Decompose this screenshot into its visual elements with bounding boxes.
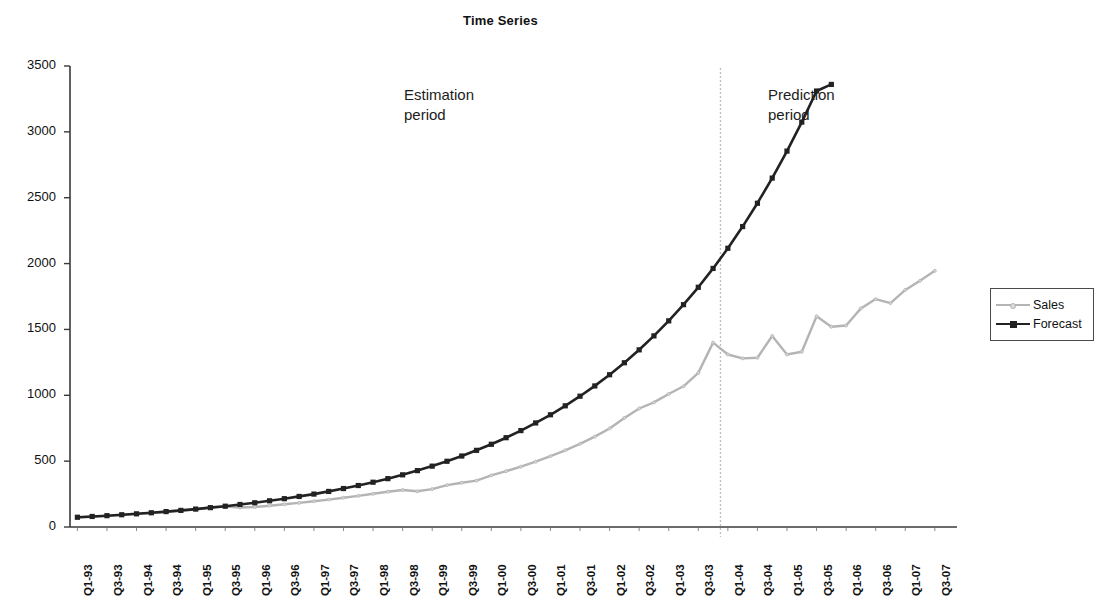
series-marker-sales [667, 392, 670, 395]
x-axis-tick-label: Q3-01 [585, 565, 597, 596]
series-marker-forecast [725, 246, 730, 251]
prediction-period-label: Prediction period [768, 85, 835, 125]
series-marker-forecast [666, 318, 671, 323]
legend-item-sales[interactable]: Sales [996, 295, 1088, 314]
series-marker-forecast [297, 494, 302, 499]
x-axis-tick-label: Q1-97 [319, 565, 331, 596]
x-axis-tick-label: Q1-93 [82, 565, 94, 596]
series-marker-forecast [341, 486, 346, 491]
x-axis-tick-label: Q3-98 [408, 565, 420, 596]
series-marker-sales [638, 407, 641, 410]
series-marker-sales [549, 455, 552, 458]
y-axis-ticks [64, 66, 70, 527]
y-axis-tick-label: 2500 [0, 189, 56, 204]
series-marker-sales [579, 442, 582, 445]
x-axis-tick-label: Q3-97 [348, 565, 360, 596]
x-axis-tick-label: Q3-95 [230, 565, 242, 596]
x-axis-tick-label: Q3-05 [822, 565, 834, 596]
series-marker-sales [519, 465, 522, 468]
series-marker-forecast [518, 428, 523, 433]
series-marker-forecast [444, 459, 449, 464]
series-marker-forecast [607, 372, 612, 377]
x-axis-tick-label: Q3-00 [526, 565, 538, 596]
series-marker-forecast [415, 468, 420, 473]
series-marker-forecast [134, 511, 139, 516]
y-axis-tick-label: 3500 [0, 57, 56, 72]
legend-item-forecast[interactable]: Forecast [996, 314, 1088, 333]
series-marker-sales [919, 279, 922, 282]
chart-legend: Sales Forecast [990, 288, 1094, 341]
series-marker-forecast [208, 505, 213, 510]
series-marker-forecast [370, 480, 375, 485]
series-marker-sales [830, 325, 833, 328]
series-marker-forecast [430, 464, 435, 469]
series-marker-sales [623, 416, 626, 419]
series-marker-sales [386, 490, 389, 493]
series-marker-sales [564, 449, 567, 452]
x-axis-tick-label: Q1-03 [674, 565, 686, 596]
series-marker-sales [253, 505, 256, 508]
series-marker-forecast [563, 403, 568, 408]
series-marker-sales [283, 503, 286, 506]
x-axis-tick-label: Q1-02 [615, 565, 627, 596]
series-marker-sales [593, 435, 596, 438]
series-marker-forecast [474, 448, 479, 453]
series-marker-sales [608, 427, 611, 430]
series-marker-sales [859, 307, 862, 310]
x-axis-tick-label: Q3-93 [112, 565, 124, 596]
series-marker-forecast [637, 347, 642, 352]
series-marker-forecast [237, 502, 242, 507]
x-axis-tick-label: Q1-06 [851, 565, 863, 596]
series-marker-forecast [311, 491, 316, 496]
series-marker-sales [771, 335, 774, 338]
series-marker-forecast [163, 509, 168, 514]
series-marker-sales [445, 484, 448, 487]
x-axis-tick-label: Q3-99 [467, 565, 479, 596]
x-axis-tick-label: Q3-03 [703, 565, 715, 596]
series-marker-forecast [592, 383, 597, 388]
series-marker-forecast [696, 285, 701, 290]
series-marker-forecast [548, 412, 553, 417]
series-marker-forecast [119, 512, 124, 517]
axes [70, 66, 957, 531]
series-marker-forecast [784, 148, 789, 153]
series-marker-sales [312, 500, 315, 503]
series-marker-forecast [622, 360, 627, 365]
x-axis-tick-label: Q3-06 [881, 565, 893, 596]
series-marker-forecast [651, 333, 656, 338]
x-axis-tick-label: Q3-94 [171, 565, 183, 596]
series-marker-sales [298, 501, 301, 504]
y-axis-tick-label: 1500 [0, 320, 56, 335]
y-axis-tick-label: 1000 [0, 386, 56, 401]
series-marker-sales [652, 401, 655, 404]
x-axis-tick-label: Q1-95 [201, 565, 213, 596]
series-marker-sales [800, 350, 803, 353]
series-marker-forecast [326, 489, 331, 494]
series-marker-forecast [223, 504, 228, 509]
legend-swatch-sales-icon [996, 299, 1030, 311]
x-axis-tick-label: Q1-07 [910, 565, 922, 596]
y-axis-tick-label: 0 [0, 518, 56, 533]
series-marker-forecast [282, 496, 287, 501]
legend-label-forecast: Forecast [1033, 317, 1082, 331]
series-marker-forecast [504, 435, 509, 440]
series-marker-sales [741, 357, 744, 360]
y-axis-tick-label: 3000 [0, 123, 56, 138]
series-marker-sales [401, 488, 404, 491]
series-marker-sales [490, 474, 493, 477]
series-marker-sales [785, 353, 788, 356]
series-marker-forecast [178, 508, 183, 513]
series-marker-sales [874, 298, 877, 301]
series-marker-sales [416, 490, 419, 493]
x-axis-tick-label: Q3-02 [644, 565, 656, 596]
x-axis-tick-label: Q1-05 [792, 565, 804, 596]
series-marker-sales [475, 479, 478, 482]
series-marker-forecast [356, 483, 361, 488]
series-marker-forecast [740, 224, 745, 229]
series-marker-sales [726, 353, 729, 356]
y-axis-tick-label: 500 [0, 452, 56, 467]
series-marker-forecast [267, 498, 272, 503]
series-marker-sales [505, 470, 508, 473]
series-marker-forecast [90, 514, 95, 519]
series-line-sales [77, 271, 934, 518]
